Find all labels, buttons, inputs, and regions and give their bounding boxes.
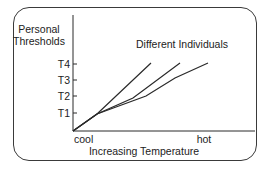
tick-label-t1: T1 bbox=[58, 107, 70, 119]
y-axis-label-line1: Personal bbox=[18, 23, 59, 35]
y-axis-label-line2: Thresholds bbox=[13, 35, 65, 47]
tick-label-t3: T3 bbox=[58, 74, 70, 86]
tick-label-t2: T2 bbox=[58, 90, 70, 102]
x-min-label: cool bbox=[74, 133, 93, 145]
series-label: Different Individuals bbox=[136, 38, 228, 50]
threshold-diagram: T4 T3 T2 T1 Personal Thresholds Differen… bbox=[0, 0, 272, 171]
x-max-label: hot bbox=[197, 133, 212, 145]
tick-label-t4: T4 bbox=[58, 58, 70, 70]
individual-line-1 bbox=[73, 63, 151, 131]
individual-line-2 bbox=[73, 63, 180, 131]
x-axis-label: Increasing Temperature bbox=[89, 145, 199, 157]
